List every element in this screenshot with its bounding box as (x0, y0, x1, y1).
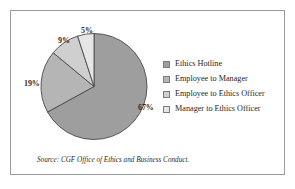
legend-item-label: Ethics Hotline (175, 60, 222, 68)
legend-item-employee-to-manager: Employee to Manager (163, 73, 281, 86)
legend-item-label: Manager to Ethics Officer (175, 105, 261, 113)
source-note: Source: CGF Office of Ethics and Busines… (37, 156, 189, 164)
legend-item-label: Employee to Manager (175, 75, 248, 83)
slice-label-manager-to-ethics-officer: 5% (81, 26, 93, 35)
legend-item-label: Employee to Ethics Officer (175, 90, 265, 98)
legend-swatch-icon (163, 106, 170, 113)
legend-swatch-icon (163, 76, 170, 83)
slice-label-ethics-hotline: 67% (138, 103, 154, 112)
legend-swatch-icon (163, 61, 170, 68)
pie-slice-group (41, 34, 147, 140)
legend-item-manager-to-ethics-officer: Manager to Ethics Officer (163, 103, 281, 116)
chart-legend: Ethics Hotline Employee to Manager Emplo… (163, 58, 281, 118)
legend-swatch-icon (163, 91, 170, 98)
pie-chart: 67% 19% 9% 5% Ethics Hotline Employee to… (11, 11, 286, 176)
legend-item-employee-to-ethics-officer: Employee to Ethics Officer (163, 88, 281, 101)
legend-item-ethics-hotline: Ethics Hotline (163, 58, 281, 71)
figure-frame: 67% 19% 9% 5% Ethics Hotline Employee to… (10, 10, 285, 175)
pie-chart-svg (29, 29, 159, 144)
slice-label-employee-to-ethics-officer: 9% (58, 36, 70, 45)
slice-label-employee-to-manager: 19% (24, 79, 40, 88)
